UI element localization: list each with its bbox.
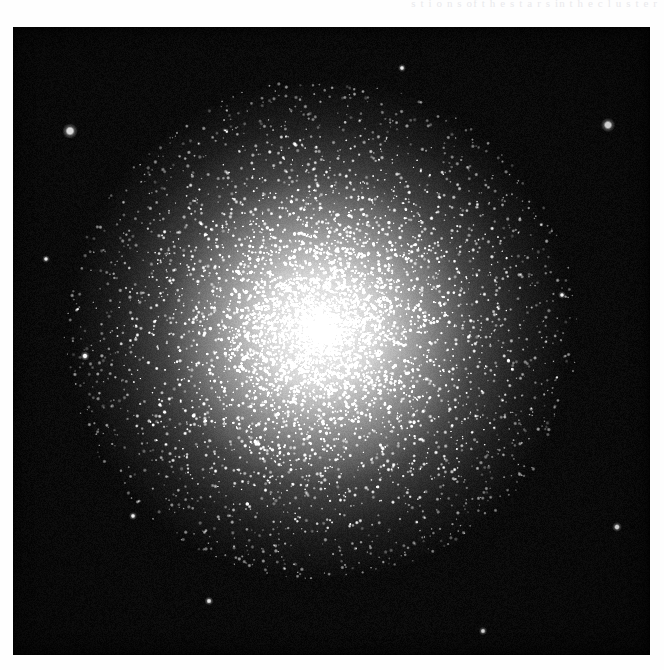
astronomical-photo-plate — [13, 27, 650, 655]
globular-cluster-image — [13, 27, 650, 655]
scanned-page: s t i o n s of t h e s t a r s in t h e … — [0, 0, 664, 670]
cut-off-text-remnant: s t i o n s of t h e s t a r s in t h e … — [0, 0, 664, 7]
